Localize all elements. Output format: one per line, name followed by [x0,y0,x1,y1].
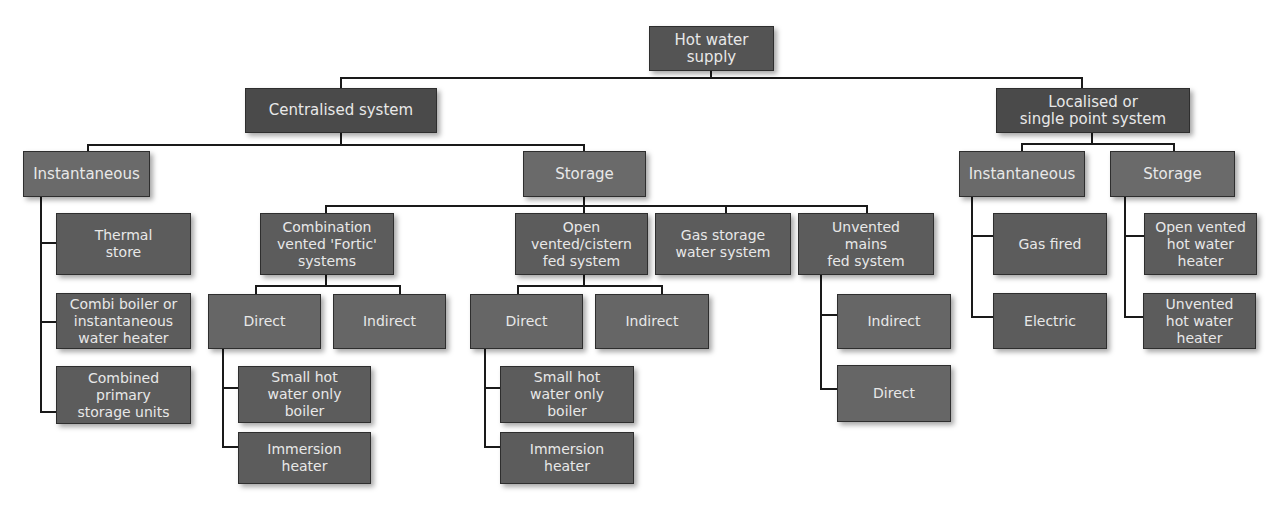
connector [820,388,837,390]
node-open-vented: Open vented/cistern fed system [515,213,648,275]
node-open-vented-heater: Open vented hot water heater [1144,213,1257,275]
node-fortic-indirect: Indirect [333,294,446,349]
node-unvented-heater: Unvented hot water heater [1143,293,1256,349]
node-hot-water-supply: Hot water supply [649,26,774,71]
node-open-direct: Direct [470,294,583,349]
node-electric: Electric [993,293,1107,349]
node-combined-primary-storage: Combined primary storage units [56,366,191,424]
node-open-indirect: Indirect [595,294,709,349]
node-fortic-immersion: Immersion heater [238,432,371,484]
connector [484,387,501,389]
connector [484,348,486,447]
connector [1124,316,1144,318]
connector [40,321,57,323]
connector [255,285,257,294]
connector [517,285,662,287]
node-centralised-system: Centralised system [245,88,437,133]
node-unvented-direct: Direct [837,365,951,422]
node-open-immersion: Immersion heater [500,432,634,484]
connector [517,285,519,294]
connector [1124,235,1144,237]
node-open-small-boiler: Small hot water only boiler [500,366,634,423]
node-gas-fired: Gas fired [993,213,1107,275]
node-localised-system: Localised or single point system [996,88,1190,133]
connector [1021,143,1023,151]
connector [40,196,42,412]
connector [325,205,867,207]
connector [87,144,584,146]
connector [820,275,822,389]
connector [1021,143,1174,145]
connector [399,285,401,294]
node-combi-boiler: Combi boiler or instantaneous water heat… [56,293,191,349]
connector [971,316,993,318]
connector [222,348,224,447]
connector [971,196,973,317]
connector [661,285,663,294]
node-gas-storage: Gas storage water system [655,213,791,275]
node-fortic-systems: Combination vented 'Fortic' systems [260,213,394,275]
node-local-storage: Storage [1110,151,1235,197]
connector [820,314,837,316]
connector [1173,143,1175,151]
connector [255,285,400,287]
node-unvented-indirect: Indirect [837,294,951,349]
node-central-storage: Storage [523,151,646,197]
connector [1124,196,1126,317]
connector [40,242,57,244]
connector [583,196,585,205]
node-local-instantaneous: Instantaneous [959,151,1085,197]
node-thermal-store: Thermal store [56,213,191,275]
connector [971,235,993,237]
node-unvented-mains: Unvented mains fed system [798,213,934,275]
connector [484,446,501,448]
node-fortic-small-boiler: Small hot water only boiler [238,366,371,423]
connector [340,77,1082,79]
node-central-instantaneous: Instantaneous [23,151,150,197]
connector [222,446,239,448]
connector [40,411,57,413]
node-fortic-direct: Direct [208,294,321,349]
connector [222,387,239,389]
